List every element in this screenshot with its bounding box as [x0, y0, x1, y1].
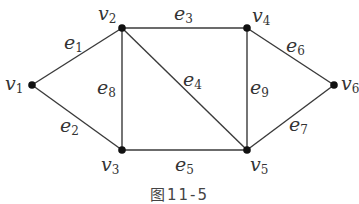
edge-label-e8: e8: [97, 78, 116, 99]
label-letter: v: [98, 2, 109, 24]
edge-label-e4: e4: [183, 70, 202, 91]
edge-label-e9: e9: [250, 78, 269, 99]
label-subscript: 2: [71, 124, 79, 138]
vertex-v4: [243, 24, 251, 32]
vertex-label-v2: v2: [98, 4, 116, 25]
label-letter: v: [5, 72, 16, 94]
vertex-label-v4: v4: [252, 6, 270, 27]
label-subscript: 8: [108, 86, 116, 100]
label-subscript: 3: [185, 12, 193, 26]
vertex-v6: [330, 81, 338, 89]
edge-label-e2: e2: [60, 116, 79, 137]
vertex-v3: [118, 146, 126, 154]
label-subscript: 6: [297, 44, 305, 58]
vertex-label-v1: v1: [5, 74, 23, 95]
label-letter: e: [60, 114, 71, 136]
vertex-v2: [118, 24, 126, 32]
vertex-label-v5: v5: [250, 155, 268, 176]
label-subscript: 3: [112, 163, 120, 177]
vertex-label-v3: v3: [101, 155, 119, 176]
edge-label-e6: e6: [286, 36, 305, 57]
label-subscript: 5: [186, 163, 194, 177]
edge-label-e1: e1: [64, 33, 83, 54]
label-subscript: 6: [352, 82, 359, 96]
label-letter: e: [174, 2, 185, 24]
label-letter: v: [101, 153, 112, 175]
edge-label-e3: e3: [174, 4, 193, 25]
label-letter: e: [289, 113, 300, 135]
figure-caption: 图11-5: [150, 183, 209, 204]
label-subscript: 1: [16, 82, 24, 96]
label-subscript: 4: [263, 14, 271, 28]
label-letter: v: [252, 4, 263, 26]
label-letter: v: [250, 153, 261, 175]
label-letter: v: [341, 72, 352, 94]
label-subscript: 5: [261, 163, 269, 177]
label-letter: e: [97, 76, 108, 98]
label-letter: e: [183, 68, 194, 90]
label-letter: e: [286, 34, 297, 56]
label-subscript: 9: [261, 86, 269, 100]
label-letter: e: [64, 31, 75, 53]
label-letter: e: [175, 153, 186, 175]
label-subscript: 1: [75, 41, 83, 55]
label-letter: e: [250, 76, 261, 98]
vertex-label-v6: v6: [341, 74, 359, 95]
label-subscript: 7: [300, 123, 308, 137]
label-subscript: 4: [194, 78, 202, 92]
label-subscript: 2: [109, 12, 117, 26]
edge-label-e5: e5: [175, 155, 194, 176]
vertex-v1: [28, 81, 36, 89]
edge-label-e7: e7: [289, 115, 308, 136]
